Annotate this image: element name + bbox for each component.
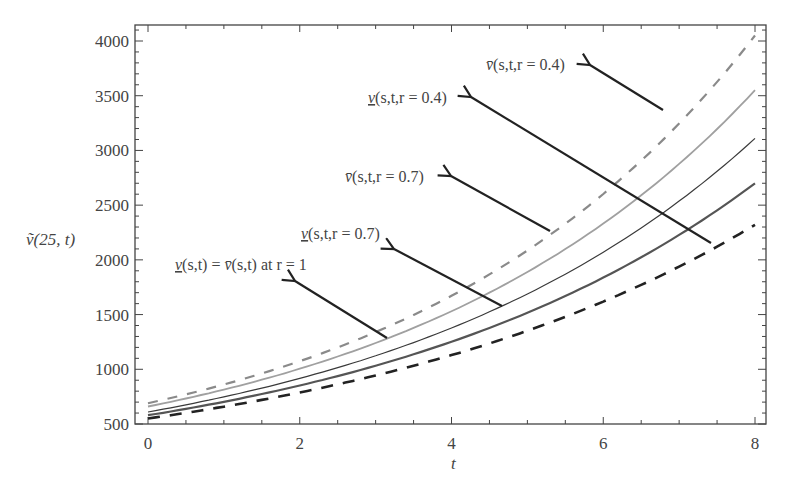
annotation-arrow-0	[590, 65, 663, 110]
annotation-r1: v(s,t) = v̄(s,t) at r = 1	[175, 256, 307, 274]
plot-frame	[135, 25, 766, 424]
annotation-arrow-1	[471, 97, 711, 243]
series-line-0	[148, 36, 755, 404]
plot-border	[135, 25, 766, 424]
y-tick-label: 1000	[95, 360, 129, 379]
data-series	[148, 36, 755, 419]
y-tick-label: 500	[104, 415, 130, 434]
x-tick-label: 8	[751, 434, 760, 453]
annotation-vbar-r07: v̄(s,t,r = 0.7)	[345, 168, 424, 186]
series-line-3	[148, 183, 755, 415]
annotation-vunder-r04: v(s,t,r = 0.4)	[368, 89, 447, 107]
x-tick-label: 2	[296, 434, 305, 453]
x-axis-label: t	[451, 454, 457, 473]
y-tick-label: 1500	[95, 306, 129, 325]
y-tick-label: 3000	[95, 141, 129, 160]
y-tick-label: 2000	[95, 251, 129, 270]
annotation-arrows	[295, 65, 711, 338]
y-axis-label: ṽ(25, t)	[26, 230, 75, 249]
annotation-vbar-r04: v̄(s,t,r = 0.4)	[486, 56, 565, 74]
annotation-arrow-2	[451, 176, 550, 231]
y-tick-label: 2500	[95, 196, 129, 215]
y-tick-label: 4000	[95, 32, 129, 51]
chart: 024685001000150020002500300035004000 ṽ(2…	[0, 0, 792, 498]
x-tick-label: 0	[144, 434, 153, 453]
x-tick-label: 6	[599, 434, 608, 453]
x-tick-label: 4	[447, 434, 456, 453]
series-line-4	[148, 225, 755, 419]
y-tick-label: 3500	[95, 87, 129, 106]
annotation-arrow-4	[295, 281, 387, 338]
annotation-vunder-r07: v(s,t,r = 0.7)	[301, 225, 380, 243]
